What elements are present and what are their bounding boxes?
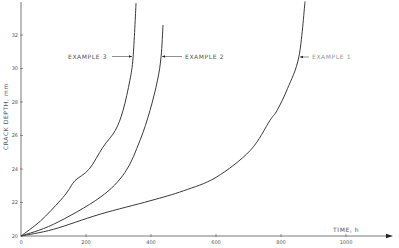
arrow-head-icon <box>162 55 165 58</box>
crack-depth-chart: 2022242628303202004006008001000 EXAMPLE … <box>0 0 399 248</box>
x-tick-label: 0 <box>19 239 22 245</box>
arrow-head-icon <box>300 56 303 59</box>
y-tick-label: 28 <box>12 99 18 105</box>
x-tick-label: 1000 <box>340 239 353 245</box>
curve-example-1 <box>21 2 305 237</box>
label-example-1: EXAMPLE 1 <box>312 53 351 60</box>
curves <box>21 2 305 237</box>
y-tick-label: 30 <box>12 65 18 71</box>
label-example-2: EXAMPLE 2 <box>185 53 224 60</box>
x-tick-label: 600 <box>211 239 221 245</box>
x-tick-label: 800 <box>276 239 286 245</box>
x-tick-label: 200 <box>81 239 91 245</box>
x-axis-title: TIME, h <box>332 226 359 233</box>
x-tick-label: 400 <box>146 239 156 245</box>
x-axis-arrow-icon <box>386 234 393 238</box>
curve-example-3 <box>21 3 136 236</box>
y-tick-label: 24 <box>12 166 18 172</box>
label-example-3: EXAMPLE 3 <box>68 53 107 60</box>
y-tick-label: 26 <box>12 132 18 138</box>
annotations: EXAMPLE 3EXAMPLE 2EXAMPLE 1 <box>68 53 351 61</box>
y-axis-title: CRACK DEPTH, mm <box>2 83 9 150</box>
arrow-head-icon <box>129 55 132 58</box>
y-tick-label: 32 <box>12 32 18 38</box>
y-tick-label: 20 <box>12 233 18 239</box>
axes: 2022242628303202004006008001000 <box>12 2 393 245</box>
y-tick-label: 22 <box>12 199 18 205</box>
